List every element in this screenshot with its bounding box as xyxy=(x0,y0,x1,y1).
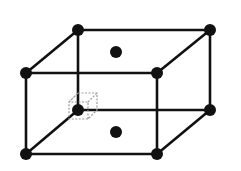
atom-front-bottom-left xyxy=(20,148,32,160)
edge-back-bottom-right-to-front-bottom-right xyxy=(157,110,210,154)
atom-front-top-left xyxy=(20,67,32,79)
edge-back-bottom-left-to-front-bottom-left xyxy=(26,110,78,154)
edge-back-top-right-to-front-top-right xyxy=(157,30,210,73)
atom-bottom xyxy=(110,126,122,138)
atom-top xyxy=(110,46,122,58)
edge-back-top-left-to-front-top-left xyxy=(26,30,78,73)
atom-back-bottom-left xyxy=(72,104,84,116)
atom-back-top-right xyxy=(204,24,216,36)
unit-cell-diagram xyxy=(0,0,241,171)
atom-back-top-left xyxy=(72,24,84,36)
atom-back-bottom-right xyxy=(204,104,216,116)
atom-front-bottom-right xyxy=(151,148,163,160)
atom-front-top-right xyxy=(151,67,163,79)
